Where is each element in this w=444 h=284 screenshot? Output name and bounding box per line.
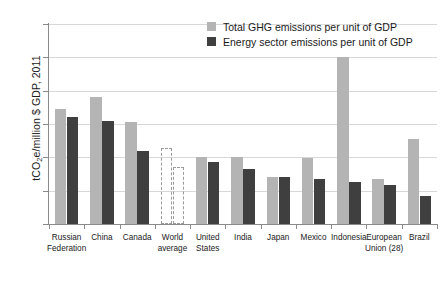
x-tick-mark xyxy=(261,224,262,229)
legend-item-energy: Energy sector emissions per unit of GDP xyxy=(207,34,413,49)
x-axis-line xyxy=(48,224,437,225)
x-tick-mark xyxy=(120,224,121,229)
bar-total xyxy=(90,97,102,225)
x-tick-mark xyxy=(84,224,85,229)
bar-total xyxy=(267,177,279,224)
x-tick-mark xyxy=(437,224,438,229)
legend-label-energy: Energy sector emissions per unit of GDP xyxy=(223,36,413,48)
bar-energy xyxy=(102,121,114,224)
bar-total xyxy=(161,148,173,224)
legend-label-total: Total GHG emissions per unit of GDP xyxy=(223,21,397,33)
legend-swatch-total-icon xyxy=(207,22,216,31)
bar-chart: tCO2e/million $ GDP, 2011 02004006008001… xyxy=(0,0,444,284)
x-tick-mark xyxy=(331,224,332,229)
x-tick-mark xyxy=(190,224,191,229)
bar-energy xyxy=(314,179,326,224)
x-tick-mark xyxy=(225,224,226,229)
x-axis-label-line: Union (28) xyxy=(360,244,407,255)
bar-energy xyxy=(420,196,432,224)
bar-total xyxy=(55,109,67,224)
legend-item-total: Total GHG emissions per unit of GDP xyxy=(207,19,413,34)
bar-total xyxy=(125,122,137,225)
x-tick-mark xyxy=(366,224,367,229)
bar-energy xyxy=(137,151,149,224)
bar-total xyxy=(337,57,349,224)
bar-energy xyxy=(349,182,361,225)
x-axis-label-line: Federation xyxy=(43,244,90,255)
y-axis-title: tCO2e/million $ GDP, 2011 xyxy=(30,18,42,218)
x-axis-label-line: States xyxy=(184,244,231,255)
x-tick-mark xyxy=(296,224,297,229)
x-axis-label: Brazil xyxy=(396,233,443,244)
legend-swatch-energy-icon xyxy=(207,37,216,46)
bar-energy xyxy=(243,169,255,224)
x-axis-label-line: Brazil xyxy=(396,233,443,244)
bar-energy xyxy=(384,185,396,224)
bar-energy xyxy=(67,117,79,225)
x-tick-mark xyxy=(402,224,403,229)
x-tick-mark xyxy=(155,224,156,229)
bar-energy xyxy=(279,177,291,225)
bar-total xyxy=(408,139,420,224)
x-tick-mark xyxy=(49,224,50,229)
plot-area xyxy=(49,24,437,224)
bar-total xyxy=(372,179,384,224)
bar-total xyxy=(231,157,243,224)
bar-energy xyxy=(208,162,220,225)
bar-energy xyxy=(173,167,185,224)
bar-total xyxy=(302,158,314,224)
bar-total xyxy=(196,157,208,224)
chart-legend: Total GHG emissions per unit of GDP Ener… xyxy=(207,19,413,49)
